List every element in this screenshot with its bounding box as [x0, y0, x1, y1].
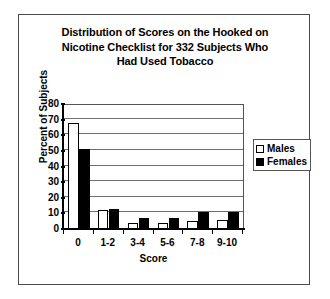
y-tick-label: 0: [29, 224, 59, 234]
bar-males-1-2: [98, 210, 109, 229]
chart-legend: MalesFemales: [253, 139, 311, 171]
x-tick-label: 9-10: [207, 237, 247, 248]
bar-males-0: [68, 123, 79, 229]
x-tick-mark: [63, 230, 64, 234]
x-axis-title: Score: [63, 253, 244, 264]
chart-title: Distribution of Scores on the Hooked on …: [29, 25, 301, 69]
bar-females-1-2: [109, 209, 120, 229]
chart-title-line-2: Nicotine Checklist for 332 Subjects Who: [29, 40, 301, 55]
open-square-swatch: [256, 145, 264, 153]
x-tick-mark: [212, 230, 213, 234]
bar-group: [213, 105, 243, 229]
y-axis-title: Percent of Subjects: [38, 47, 49, 187]
legend-label: Females: [267, 157, 307, 167]
bar-group: [183, 105, 213, 229]
legend-item-males[interactable]: Males: [256, 142, 307, 155]
bar-group: [154, 105, 184, 229]
chart-title-line-1: Distribution of Scores on the Hooked on: [29, 25, 301, 40]
bar-females-0: [79, 149, 90, 229]
x-axis-line: [62, 228, 245, 230]
figure-container: Distribution of Scores on the Hooked on …: [18, 14, 310, 285]
legend-label: Males: [267, 144, 295, 154]
bar-group: [94, 105, 124, 229]
bar-group: [64, 105, 94, 229]
x-tick-mark: [93, 230, 94, 234]
filled-square-swatch: [256, 158, 264, 166]
x-tick-mark: [242, 230, 243, 234]
bar-females-9-10: [228, 212, 239, 229]
x-tick-mark: [123, 230, 124, 234]
chart-title-line-3: Had Used Tobacco: [29, 54, 301, 69]
x-tick-mark: [182, 230, 183, 234]
legend-item-females[interactable]: Females: [256, 155, 307, 168]
bar-females-7-8: [198, 212, 209, 229]
y-tick-label: 10: [29, 208, 59, 218]
bar-group: [124, 105, 154, 229]
y-tick-label: 20: [29, 193, 59, 203]
bars-layer: [64, 105, 243, 229]
x-tick-mark: [153, 230, 154, 234]
